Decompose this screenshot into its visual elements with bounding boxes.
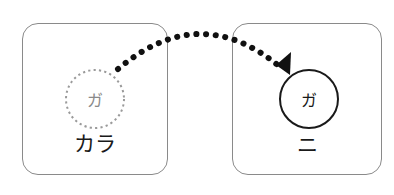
target-item: ガ (279, 69, 339, 129)
dotted-arrow-path (118, 34, 280, 69)
source-item: ガ (65, 69, 125, 129)
